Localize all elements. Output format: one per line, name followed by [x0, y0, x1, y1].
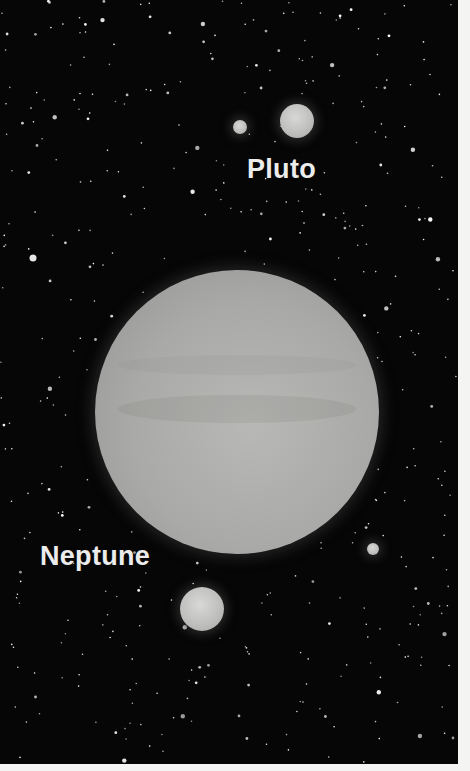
neptune-moon-small	[367, 543, 379, 555]
neptune-planet	[95, 270, 379, 554]
pluto-planet	[280, 104, 314, 138]
neptune-label: Neptune	[40, 541, 150, 572]
pluto-label: Pluto	[247, 154, 316, 185]
neptune-moon-large	[180, 587, 224, 631]
starfield-background: Pluto Neptune	[0, 0, 458, 764]
image-frame: Pluto Neptune	[0, 0, 470, 771]
pluto-moon-charon	[233, 120, 247, 134]
